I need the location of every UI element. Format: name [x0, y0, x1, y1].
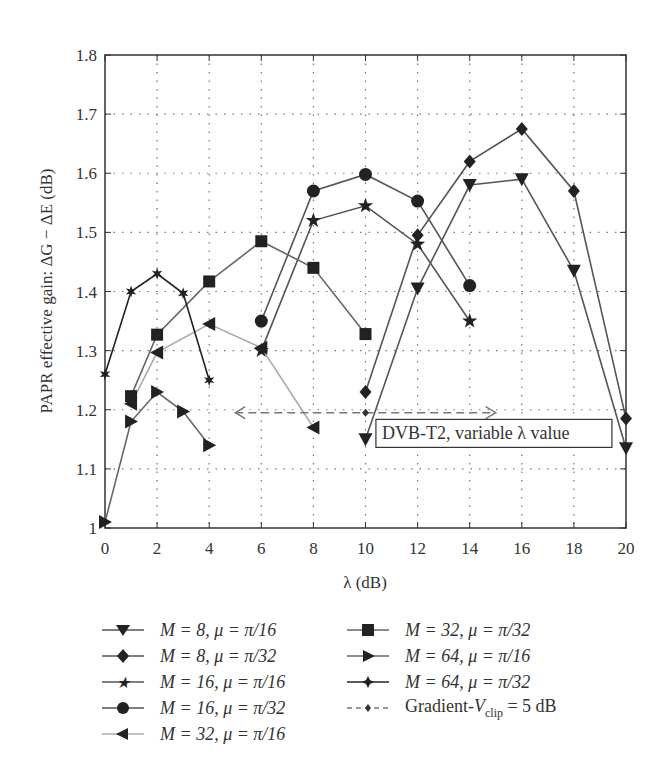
x-tick-label: 20 [618, 539, 635, 558]
chart: 0246810121416182011.11.21.31.41.51.61.71… [0, 0, 661, 610]
legend-item: M = 64, μ = π/16 [345, 643, 530, 669]
square-icon [345, 620, 391, 640]
y-tick-label: 1.6 [76, 164, 97, 183]
y-tick-label: 1.5 [76, 223, 97, 242]
triangle-down-icon [100, 620, 146, 640]
legend-item: M = 8, μ = π/16 [100, 617, 276, 643]
triangle-left-icon [100, 724, 146, 744]
series-line [360, 122, 633, 426]
y-tick-label: 1.7 [76, 105, 98, 124]
legend-item: M = 8, μ = π/32 [100, 643, 276, 669]
x-tick-label: 4 [205, 539, 214, 558]
triangle-right-icon [345, 646, 391, 666]
annotations: DVB-T2, variable λ value [376, 419, 612, 447]
svg-text:★: ★ [116, 674, 132, 691]
x-tick-label: 16 [513, 539, 530, 558]
dashed-diamond-icon [345, 698, 391, 718]
series-line [235, 407, 496, 419]
series-line [99, 385, 216, 529]
y-tick-label: 1 [89, 519, 98, 538]
legend: M = 8, μ = π/16 M = 8, μ = π/32 ★ M = 16… [100, 617, 640, 757]
legend-label: M = 64, μ = π/32 [405, 672, 530, 693]
y-axis-title: PAPR effective gain: ΔG − ΔE (dB) [37, 169, 56, 414]
legend-item: M = 32, μ = π/16 [100, 721, 285, 747]
x-tick-label: 18 [565, 539, 582, 558]
legend-label: M = 64, μ = π/16 [405, 646, 530, 667]
legend-item: Gradient-Vclip = 5 dB [345, 695, 557, 721]
x-tick-label: 14 [461, 539, 479, 558]
y-tick-label: 1.8 [76, 46, 97, 65]
star-icon: ★ [100, 672, 146, 692]
y-tick-label: 1.2 [76, 401, 97, 420]
x-tick-label: 12 [409, 539, 426, 558]
axis-ticks: 0246810121416182011.11.21.31.41.51.61.71… [76, 46, 635, 558]
legend-item: M = 32, μ = π/32 [345, 617, 530, 643]
y-tick-label: 1.4 [76, 283, 98, 302]
legend-label: M = 16, μ = π/32 [160, 698, 285, 719]
legend-item: M = 64, μ = π/32 [345, 669, 530, 695]
y-tick-label: 1.1 [76, 460, 97, 479]
legend-label: M = 8, μ = π/32 [160, 646, 276, 667]
legend-label: M = 8, μ = π/16 [160, 620, 276, 641]
x-tick-label: 2 [153, 539, 162, 558]
x-tick-label: 0 [101, 539, 110, 558]
legend-label: M = 32, μ = π/16 [160, 724, 285, 745]
series-line [125, 235, 371, 402]
circle-icon [100, 698, 146, 718]
annotation-text: DVB-T2, variable λ value [382, 423, 570, 443]
y-tick-label: 1.3 [76, 342, 97, 361]
legend-item: ★ M = 16, μ = π/16 [100, 669, 285, 695]
x-tick-label: 6 [257, 539, 266, 558]
legend-item: M = 16, μ = π/32 [100, 695, 285, 721]
small-star-icon [345, 672, 391, 692]
legend-label: Gradient-Vclip = 5 dB [405, 696, 557, 721]
x-tick-label: 10 [357, 539, 374, 558]
x-tick-label: 8 [309, 539, 318, 558]
legend-label: M = 16, μ = π/16 [160, 672, 285, 693]
legend-label: M = 32, μ = π/32 [405, 620, 530, 641]
diamond-icon [100, 646, 146, 666]
x-axis-title: λ (dB) [343, 573, 387, 592]
